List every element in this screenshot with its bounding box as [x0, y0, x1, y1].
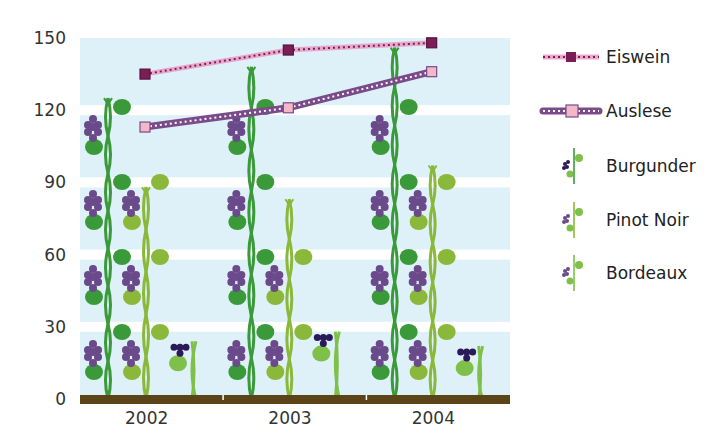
- x-tick-label: 2002: [125, 408, 168, 428]
- grape: [171, 344, 178, 351]
- leaf-icon: [400, 324, 418, 340]
- grape: [232, 284, 240, 292]
- line-marker: [140, 69, 150, 79]
- grape: [232, 198, 240, 206]
- leaf-icon: [400, 249, 418, 265]
- grapevine-icon: [562, 202, 583, 238]
- grape: [457, 349, 464, 356]
- leaf-icon: [312, 346, 330, 362]
- grape: [89, 284, 97, 292]
- grape: [177, 350, 184, 357]
- y-axis-ticks: 0306090120150: [34, 28, 66, 409]
- grape: [414, 348, 422, 356]
- grape: [232, 209, 240, 217]
- leaf-icon: [256, 249, 274, 265]
- legend-label: Bordeaux: [606, 263, 687, 283]
- grape: [89, 198, 97, 206]
- leaf-icon: [113, 174, 131, 190]
- x-tick-label: 2003: [268, 408, 311, 428]
- grape: [127, 209, 135, 217]
- grape: [376, 123, 384, 131]
- ground-axis: [80, 395, 510, 404]
- leaf-icon: [169, 355, 187, 371]
- leaf-icon: [294, 324, 312, 340]
- leaf-icon: [438, 324, 456, 340]
- legend-label: Pinot Noir: [606, 210, 689, 230]
- grape: [414, 359, 422, 367]
- grape: [314, 334, 321, 341]
- line-marker: [140, 122, 150, 132]
- grape: [463, 355, 470, 362]
- y-tick-label: 30: [44, 317, 66, 337]
- grape: [414, 273, 422, 281]
- grapevine-icon: [562, 255, 583, 291]
- y-tick-label: 60: [44, 245, 66, 265]
- grape: [127, 198, 135, 206]
- legend-item-pinot-noir: Pinot Noir: [562, 202, 689, 238]
- grape: [414, 198, 422, 206]
- grape: [183, 344, 190, 351]
- leaf-icon: [256, 174, 274, 190]
- leaf-icon: [151, 249, 169, 265]
- line-marker: [283, 45, 293, 55]
- leaf-icon: [256, 324, 274, 340]
- leaf-icon: [400, 174, 418, 190]
- grape: [270, 359, 278, 367]
- grape: [463, 349, 470, 356]
- grape: [469, 349, 476, 356]
- grape: [414, 284, 422, 292]
- line-marker: [427, 67, 437, 77]
- grape: [376, 134, 384, 142]
- legend-label: Auslese: [606, 101, 672, 121]
- grape: [414, 209, 422, 217]
- grape: [232, 348, 240, 356]
- leaf-icon: [438, 249, 456, 265]
- line-marker: [427, 38, 437, 48]
- grape: [177, 344, 184, 351]
- grape: [270, 273, 278, 281]
- grape: [89, 273, 97, 281]
- leaf-icon: [438, 174, 456, 190]
- legend-label: Burgunder: [606, 156, 696, 176]
- x-axis-labels: 200220032004: [125, 408, 455, 428]
- grape: [376, 359, 384, 367]
- axis-tick: [366, 395, 368, 400]
- line-light-square-marker-icon: [543, 105, 599, 117]
- grape: [326, 334, 333, 341]
- grape: [89, 209, 97, 217]
- grape: [89, 348, 97, 356]
- leaf-icon: [113, 249, 131, 265]
- grape: [232, 359, 240, 367]
- grapevine-icon: [562, 148, 583, 184]
- grape: [376, 198, 384, 206]
- line-dark-square-marker-icon: [543, 52, 599, 62]
- y-tick-label: 120: [34, 100, 66, 120]
- legend: EisweinAusleseBurgunderPinot NoirBordeau…: [543, 47, 696, 291]
- grape: [376, 209, 384, 217]
- legend-item-eiswein: Eiswein: [543, 47, 670, 67]
- grape: [232, 123, 240, 131]
- grape: [127, 359, 135, 367]
- grape: [320, 340, 327, 347]
- y-tick-label: 90: [44, 172, 66, 192]
- leaf-icon: [400, 99, 418, 115]
- leaf-icon: [113, 99, 131, 115]
- y-tick-label: 0: [55, 389, 66, 409]
- grape: [376, 284, 384, 292]
- wine-chart: 0306090120150 200220032004 EisweinAusles…: [0, 0, 728, 448]
- leaf-icon: [456, 360, 474, 376]
- line-marker: [283, 103, 293, 113]
- grape: [270, 348, 278, 356]
- grape: [270, 284, 278, 292]
- legend-label: Eiswein: [606, 47, 670, 67]
- leaf-icon: [151, 324, 169, 340]
- grape: [376, 273, 384, 281]
- leaf-icon: [113, 324, 131, 340]
- grape: [232, 134, 240, 142]
- legend-item-bordeaux: Bordeaux: [562, 255, 687, 291]
- grape: [89, 359, 97, 367]
- legend-item-auslese: Auslese: [543, 101, 672, 121]
- grape: [89, 134, 97, 142]
- legend-item-burgunder: Burgunder: [562, 148, 696, 184]
- leaf-icon: [151, 174, 169, 190]
